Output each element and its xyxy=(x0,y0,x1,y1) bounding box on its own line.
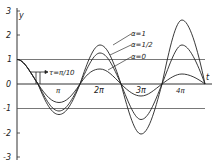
label-alpha-1: α=1 xyxy=(131,30,146,38)
y-tick-minus-3: -3 xyxy=(3,153,11,162)
y-tick-2: 2 xyxy=(6,31,11,40)
y-tick-0: 0 xyxy=(6,80,11,89)
tau-annotation: τ=π/10 xyxy=(49,69,75,77)
x-tick-4pi: 4π xyxy=(176,87,185,95)
x-tick-3pi: 3π xyxy=(136,86,146,95)
label-alpha-half: α=1/2 xyxy=(131,41,153,49)
curve-alpha-1 xyxy=(17,20,205,134)
curve-alpha-0 xyxy=(17,60,205,103)
y-tick-3: 3 xyxy=(6,7,11,16)
y-axis-label: y xyxy=(18,11,24,20)
leader-alpha-half xyxy=(110,45,131,55)
label-alpha-0: α=0 xyxy=(131,53,146,61)
x-axis-label: t xyxy=(206,73,210,82)
y-tick-1: 1 xyxy=(7,55,12,64)
leader-alpha-1 xyxy=(113,34,131,45)
chart: 3 2 1 0 -1 -2 -3 y t π 2π 3π 4π τ=π/10 α… xyxy=(0,0,220,166)
y-tick-minus-2: -2 xyxy=(3,129,11,138)
x-tick-pi: π xyxy=(56,87,61,95)
x-tick-2pi: 2π xyxy=(94,86,104,95)
y-tick-minus-1: -1 xyxy=(3,104,11,113)
